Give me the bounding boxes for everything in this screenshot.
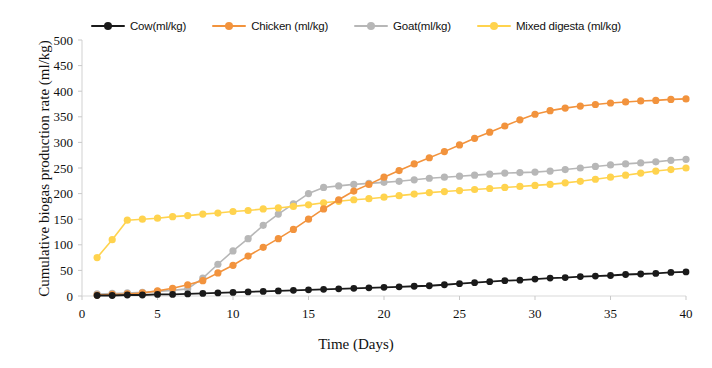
data-point-marker xyxy=(169,213,176,220)
data-point-marker xyxy=(199,277,206,284)
data-point-marker xyxy=(486,278,493,285)
data-point-marker xyxy=(245,235,252,242)
data-point-marker xyxy=(335,196,342,203)
data-point-marker xyxy=(350,187,357,194)
x-tick-label: 35 xyxy=(604,306,617,321)
data-point-marker xyxy=(411,191,418,198)
x-axis-title: Time (Days) xyxy=(0,336,712,353)
data-point-marker xyxy=(607,272,614,279)
data-point-marker xyxy=(184,212,191,219)
y-tick-label: 100 xyxy=(54,237,74,252)
x-tick-label: 30 xyxy=(529,306,542,321)
data-point-marker xyxy=(411,176,418,183)
data-point-marker xyxy=(214,269,221,276)
data-point-marker xyxy=(350,181,357,188)
data-point-marker xyxy=(320,199,327,206)
data-point-marker xyxy=(320,184,327,191)
data-point-marker xyxy=(516,169,523,176)
data-point-marker xyxy=(622,271,629,278)
data-point-marker xyxy=(622,160,629,167)
data-point-marker xyxy=(607,99,614,106)
data-point-marker xyxy=(94,254,101,261)
data-point-marker xyxy=(426,282,433,289)
y-tick-label: 350 xyxy=(54,109,74,124)
data-point-marker xyxy=(139,216,146,223)
data-point-marker xyxy=(381,284,388,291)
data-point-marker xyxy=(471,186,478,193)
y-tick-label: 300 xyxy=(54,135,74,150)
data-point-marker xyxy=(471,135,478,142)
data-point-marker xyxy=(229,262,236,269)
data-point-marker xyxy=(607,174,614,181)
data-point-marker xyxy=(426,189,433,196)
data-point-marker xyxy=(305,201,312,208)
data-point-marker xyxy=(562,179,569,186)
data-point-marker xyxy=(290,203,297,210)
data-point-marker xyxy=(501,122,508,129)
data-point-marker xyxy=(305,286,312,293)
data-point-marker xyxy=(577,178,584,185)
data-point-marker xyxy=(592,176,599,183)
data-point-marker xyxy=(229,247,236,254)
series-cow-ml-kg- xyxy=(94,269,690,299)
data-point-marker xyxy=(531,169,538,176)
data-point-marker xyxy=(441,188,448,195)
data-point-marker xyxy=(154,291,161,298)
data-point-marker xyxy=(456,187,463,194)
x-tick-label: 20 xyxy=(378,306,391,321)
data-point-marker xyxy=(305,190,312,197)
data-point-marker xyxy=(290,226,297,233)
biogas-line-chart: Cow(ml/kg)Chicken (ml/kg)Goat(ml/kg)Mixe… xyxy=(0,0,712,368)
data-point-marker xyxy=(169,291,176,298)
data-point-marker xyxy=(396,283,403,290)
data-point-marker xyxy=(652,167,659,174)
x-tick-label: 0 xyxy=(79,306,86,321)
data-point-marker xyxy=(547,181,554,188)
y-tick-label: 50 xyxy=(60,263,73,278)
data-point-marker xyxy=(199,290,206,297)
data-point-marker xyxy=(637,170,644,177)
data-point-marker xyxy=(229,208,236,215)
data-point-marker xyxy=(547,275,554,282)
data-point-marker xyxy=(486,171,493,178)
data-point-marker xyxy=(577,273,584,280)
data-point-marker xyxy=(622,172,629,179)
data-point-marker xyxy=(215,290,222,297)
data-point-marker xyxy=(531,111,538,118)
data-point-marker xyxy=(562,105,569,112)
data-point-marker xyxy=(275,204,282,211)
data-point-marker xyxy=(184,281,191,288)
data-point-marker xyxy=(109,292,116,299)
data-point-marker xyxy=(486,185,493,192)
y-tick-label: 500 xyxy=(54,33,74,48)
data-point-marker xyxy=(441,174,448,181)
data-point-marker xyxy=(396,192,403,199)
data-point-marker xyxy=(456,173,463,180)
data-point-marker xyxy=(350,196,357,203)
x-tick-label: 5 xyxy=(154,306,161,321)
data-point-marker xyxy=(637,271,644,278)
data-point-marker xyxy=(547,167,554,174)
data-point-marker xyxy=(456,280,463,287)
data-point-marker xyxy=(682,164,689,171)
y-tick-label: 150 xyxy=(54,212,74,227)
plot-svg: 0501001502002503003504004505000510152025… xyxy=(0,0,712,368)
data-point-marker xyxy=(547,107,554,114)
data-point-marker xyxy=(426,175,433,182)
data-point-marker xyxy=(622,98,629,105)
data-point-marker xyxy=(501,170,508,177)
data-point-marker xyxy=(516,116,523,123)
data-point-marker xyxy=(667,96,674,103)
data-point-marker xyxy=(637,97,644,104)
y-tick-label: 250 xyxy=(54,161,74,176)
data-point-marker xyxy=(577,164,584,171)
data-point-marker xyxy=(214,261,221,268)
data-point-marker xyxy=(245,289,252,296)
y-tick-label: 0 xyxy=(67,289,74,304)
data-point-marker xyxy=(380,174,387,181)
data-point-marker xyxy=(517,277,524,284)
data-point-marker xyxy=(350,285,357,292)
y-tick-label: 450 xyxy=(54,58,74,73)
data-point-marker xyxy=(230,289,237,296)
data-point-marker xyxy=(501,184,508,191)
